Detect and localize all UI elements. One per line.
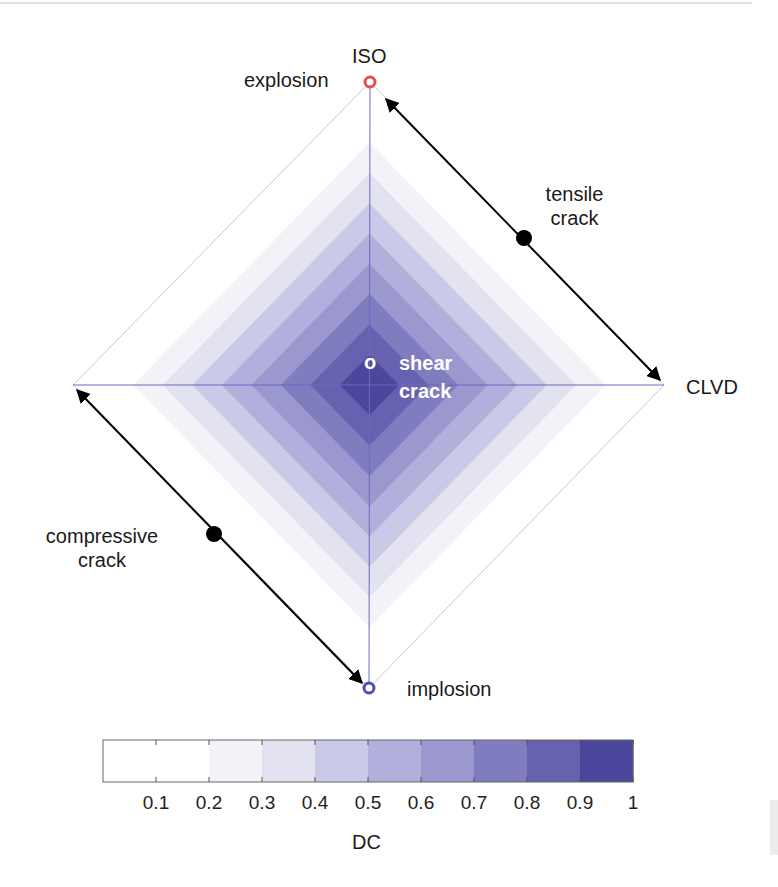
center-marker: o xyxy=(364,348,376,376)
implosion-label: implosion xyxy=(407,677,491,701)
compressive-crack-dot xyxy=(206,526,222,542)
colorbar-segment xyxy=(368,740,422,782)
colorbar-tick-label: 0.3 xyxy=(249,792,275,814)
tensile-crack-label: tensile crack xyxy=(527,182,622,230)
colorbar-segment xyxy=(580,740,634,782)
colorbar-segment xyxy=(421,740,475,782)
colorbar-segment xyxy=(156,740,210,782)
colorbar-tick-label: 0.8 xyxy=(514,792,540,814)
colorbar-tick-label: 1 xyxy=(628,792,639,814)
shear-crack-label: shear crack xyxy=(399,349,452,405)
explosion-marker xyxy=(365,77,375,87)
colorbar-segment xyxy=(209,740,263,782)
scan-artifact xyxy=(770,800,778,855)
colorbar-segment xyxy=(262,740,316,782)
tensile-crack-dot xyxy=(516,230,532,246)
colorbar-tick-label: 0.2 xyxy=(196,792,222,814)
colorbar-segment xyxy=(527,740,581,782)
colorbar-tick-label: 0.1 xyxy=(143,792,169,814)
compressive-crack-label: compressive crack xyxy=(14,524,190,572)
implosion-marker xyxy=(364,683,374,693)
colorbar-segment xyxy=(315,740,369,782)
colorbar-tick-label: 0.4 xyxy=(302,792,328,814)
iso-label: ISO xyxy=(352,44,386,68)
explosion-label: explosion xyxy=(244,68,329,92)
colorbar-label: DC xyxy=(352,830,381,854)
colorbar-tick-label: 0.7 xyxy=(461,792,487,814)
colorbar-segment xyxy=(474,740,528,782)
colorbar-tick-label: 0.5 xyxy=(355,792,381,814)
colorbar-tick-label: 0.6 xyxy=(408,792,434,814)
colorbar-tick-label: 0.9 xyxy=(567,792,593,814)
source-type-diamond-diagram xyxy=(0,0,778,887)
colorbar xyxy=(103,740,634,782)
clvd-label: CLVD xyxy=(686,375,738,399)
colorbar-segment xyxy=(103,740,157,782)
